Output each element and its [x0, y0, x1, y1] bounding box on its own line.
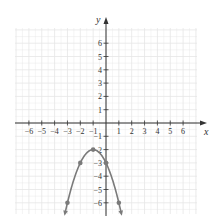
data-point [91, 147, 96, 152]
parabola-graph: −6−5−4−3−2−1123456654321−1−2−3−4−5−6 x y [0, 0, 221, 224]
x-axis-arrow-icon [200, 121, 207, 126]
x-tick-label: 6 [181, 127, 185, 136]
x-tick-label: 5 [168, 127, 172, 136]
x-tick-label: 1 [117, 127, 121, 136]
data-point [78, 161, 83, 166]
y-tick-label: 4 [98, 66, 102, 75]
x-tick-label: −6 [25, 127, 34, 136]
y-tick-label: 2 [98, 92, 102, 101]
y-tick-label: −1 [93, 132, 102, 141]
y-tick-label: 1 [98, 106, 102, 115]
y-tick-label: −6 [93, 199, 102, 208]
y-tick-label: −5 [93, 186, 102, 195]
x-tick-label: −3 [63, 127, 72, 136]
x-tick-label: −5 [37, 127, 46, 136]
x-tick-label: −2 [76, 127, 85, 136]
data-point [117, 201, 122, 206]
y-tick-label: 3 [98, 79, 102, 88]
x-tick-label: 2 [130, 127, 134, 136]
x-tick-label: −4 [50, 127, 59, 136]
data-point [65, 201, 70, 206]
x-tick-label: 3 [143, 127, 147, 136]
x-axis-label: x [203, 126, 209, 137]
y-axis-arrow-icon [104, 17, 109, 24]
data-point [104, 161, 109, 166]
y-axis-label: y [95, 14, 101, 25]
x-tick-label: 4 [155, 127, 159, 136]
y-tick-label: 6 [98, 39, 102, 48]
y-tick-label: −4 [93, 172, 102, 181]
y-tick-label: −3 [93, 159, 102, 168]
y-tick-label: 5 [98, 53, 102, 62]
